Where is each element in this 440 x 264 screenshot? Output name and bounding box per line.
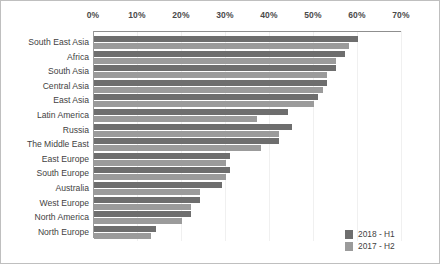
bar-row: Russia: [1, 124, 440, 138]
bar-series-2018-h1: [94, 167, 230, 173]
bar-row: East Europe: [1, 153, 440, 167]
bar-series-2017-h2: [94, 145, 261, 151]
bar-series-2017-h2: [94, 131, 279, 137]
category-label: South East Asia: [0, 35, 89, 49]
bar-series-2017-h2: [94, 218, 182, 224]
bar-row: West Europe: [1, 197, 440, 211]
bar-series-2017-h2: [94, 160, 226, 166]
bar-row: Latin America: [1, 109, 440, 123]
category-label: East Asia: [0, 93, 89, 107]
bar-row: South Europe: [1, 167, 440, 181]
chart-legend: 2018 - H12017 - H2: [345, 229, 431, 253]
category-label: Latin America: [0, 108, 89, 122]
x-axis-tick-label: 30%: [216, 10, 234, 20]
category-label: Australia: [0, 181, 89, 195]
bar-row: South Asia: [1, 65, 440, 79]
x-axis-tick-label: 60%: [348, 10, 366, 20]
plot-area: South East AsiaAfricaSouth AsiaCentral A…: [1, 31, 440, 241]
bar-series-2017-h2: [94, 101, 314, 107]
bar-series-2018-h1: [94, 226, 156, 232]
legend-swatch-icon: [345, 242, 353, 251]
bar-series-2017-h2: [94, 72, 327, 78]
bar-series-2017-h2: [94, 189, 200, 195]
bar-series-2018-h1: [94, 197, 200, 203]
bar-series-2018-h1: [94, 65, 336, 71]
x-axis: 0%10%20%30%40%50%60%70%: [1, 1, 440, 31]
category-label: Russia: [0, 123, 89, 137]
x-axis-tick-label: 20%: [172, 10, 190, 20]
category-label: The Middle East: [0, 137, 89, 151]
category-label: Africa: [0, 50, 89, 64]
bar-series-2018-h1: [94, 211, 191, 217]
legend-swatch-icon: [345, 230, 353, 239]
category-label: North America: [0, 210, 89, 224]
legend-label: 2018 - H1: [358, 229, 395, 240]
axis-top-rule: [93, 31, 401, 32]
category-label: South Europe: [0, 166, 89, 180]
bar-series-2017-h2: [94, 174, 226, 180]
bar-series-2018-h1: [94, 109, 288, 115]
bar-row: Africa: [1, 51, 440, 65]
bar-row: South East Asia: [1, 36, 440, 50]
bar-series-2017-h2: [94, 87, 323, 93]
x-axis-tick-label: 0%: [87, 10, 100, 20]
category-label: East Europe: [0, 152, 89, 166]
legend-item[interactable]: 2018 - H1: [345, 229, 431, 240]
category-label: South Asia: [0, 64, 89, 78]
bar-chart-figure: 0%10%20%30%40%50%60%70% South East AsiaA…: [0, 0, 440, 264]
bar-series-2017-h2: [94, 58, 336, 64]
x-axis-tick-label: 10%: [128, 10, 146, 20]
bar-series-2018-h1: [94, 153, 230, 159]
bar-series-2018-h1: [94, 124, 292, 130]
x-axis-tick-label: 70%: [392, 10, 410, 20]
category-label: Central Asia: [0, 79, 89, 93]
bar-series-2018-h1: [94, 36, 358, 42]
bar-series-2018-h1: [94, 138, 279, 144]
bar-series-2017-h2: [94, 116, 257, 122]
category-label: West Europe: [0, 196, 89, 210]
category-label: North Europe: [0, 225, 89, 239]
bar-series-2017-h2: [94, 233, 151, 239]
bar-row: Australia: [1, 182, 440, 196]
bar-row: East Asia: [1, 94, 440, 108]
bar-row: The Middle East: [1, 138, 440, 152]
x-axis-tick-label: 50%: [304, 10, 322, 20]
bar-series-2018-h1: [94, 94, 318, 100]
bar-row: Central Asia: [1, 80, 440, 94]
legend-item[interactable]: 2017 - H2: [345, 241, 431, 252]
bar-series-2017-h2: [94, 204, 191, 210]
bar-series-2018-h1: [94, 182, 222, 188]
bar-series-2017-h2: [94, 43, 349, 49]
bar-series-2018-h1: [94, 80, 327, 86]
bar-series-2018-h1: [94, 51, 345, 57]
x-axis-tick-label: 40%: [260, 10, 278, 20]
bar-row: North America: [1, 211, 440, 225]
legend-label: 2017 - H2: [358, 241, 395, 252]
